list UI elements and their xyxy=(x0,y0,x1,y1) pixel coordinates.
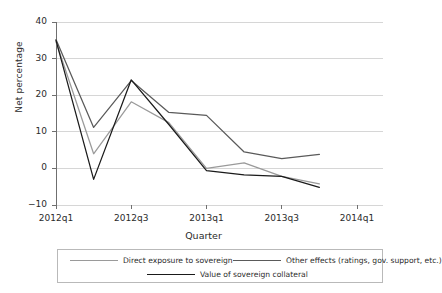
legend-item-other-effects: Other effects (ratings, gov. support, et… xyxy=(233,257,442,265)
legend-row-2: Value of sovereign collateral xyxy=(58,271,384,285)
series-line xyxy=(56,42,319,184)
legend-item-label: Value of sovereign collateral xyxy=(200,271,308,279)
legend-item-value-of-sovereign-collateral: Value of sovereign collateral xyxy=(147,271,308,279)
legend-item-label: Other effects (ratings, gov. support, et… xyxy=(286,257,442,265)
legend-line-swatch-icon xyxy=(70,260,118,261)
legend-line-swatch-icon xyxy=(147,274,195,275)
legend-item-direct-exposure-to-sovereign: Direct exposure to sovereign xyxy=(70,257,233,265)
chart-legend: Direct exposure to sovereign Other effec… xyxy=(57,249,383,283)
legend-item-label: Direct exposure to sovereign xyxy=(123,257,233,265)
legend-line-swatch-icon xyxy=(233,260,281,261)
legend-row-1: Direct exposure to sovereign Other effec… xyxy=(58,257,384,271)
series-line xyxy=(56,40,319,159)
